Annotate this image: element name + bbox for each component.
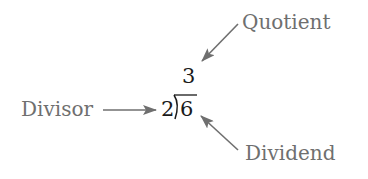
- dividend-label: Dividend: [245, 143, 335, 163]
- divisor-value: 2: [161, 99, 174, 120]
- quotient-value: 3: [182, 66, 195, 87]
- divisor-label: Divisor: [21, 99, 93, 119]
- dividend-value: 6: [180, 99, 193, 120]
- quotient-arrow: [202, 24, 238, 61]
- quotient-label: Quotient: [242, 12, 331, 32]
- division-diagram: Quotient 3 Divisor 2 6 Dividend: [0, 0, 368, 179]
- dividend-arrow: [201, 116, 238, 150]
- division-bracket: [174, 95, 177, 119]
